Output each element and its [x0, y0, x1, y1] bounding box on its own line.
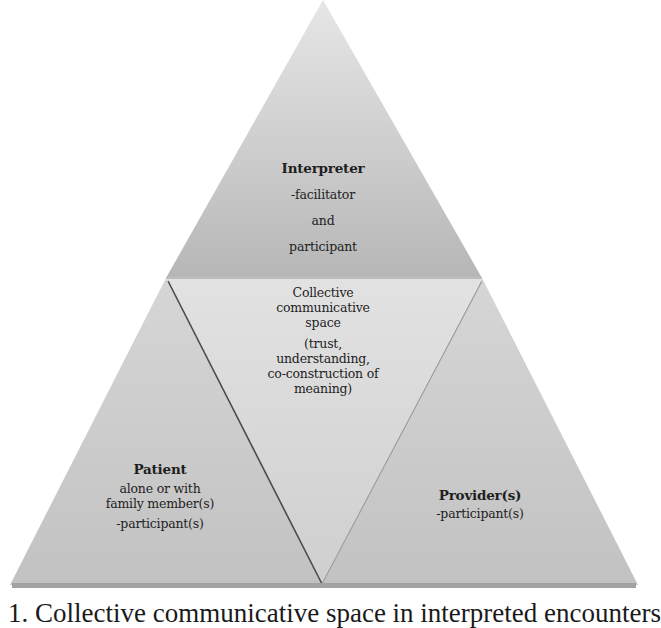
interpreter-label: Interpreter -facilitator and participant	[253, 155, 393, 260]
collective-detail-line: meaning)	[228, 381, 418, 396]
interpreter-role-line: participant	[253, 234, 393, 260]
interpreter-role-line: -facilitator	[253, 182, 393, 208]
collective-title-line: space	[228, 315, 418, 330]
interpreter-title: Interpreter	[253, 155, 393, 182]
interpreter-role-line: and	[253, 208, 393, 234]
collective-detail-line: co-construction of	[228, 366, 418, 381]
patient-title: Patient	[80, 462, 240, 477]
collective-space-label: Collective communicative space (trust, u…	[228, 285, 418, 396]
collective-title-line: Collective	[228, 285, 418, 300]
patient-description-line: alone or with	[80, 481, 240, 496]
provider-label: Provider(s) -participant(s)	[405, 488, 555, 521]
patient-role: -participant(s)	[80, 516, 240, 531]
patient-label: Patient alone or with family member(s) -…	[80, 462, 240, 531]
patient-description-line: family member(s)	[80, 496, 240, 511]
provider-role: -participant(s)	[405, 506, 555, 521]
collective-title-line: communicative	[228, 300, 418, 315]
provider-title: Provider(s)	[405, 488, 555, 503]
figure-caption: 1. Collective communicative space in int…	[8, 598, 648, 628]
collective-detail-line: understanding,	[228, 351, 418, 366]
collective-detail-line: (trust,	[228, 336, 418, 351]
base-shadow	[12, 583, 636, 588]
